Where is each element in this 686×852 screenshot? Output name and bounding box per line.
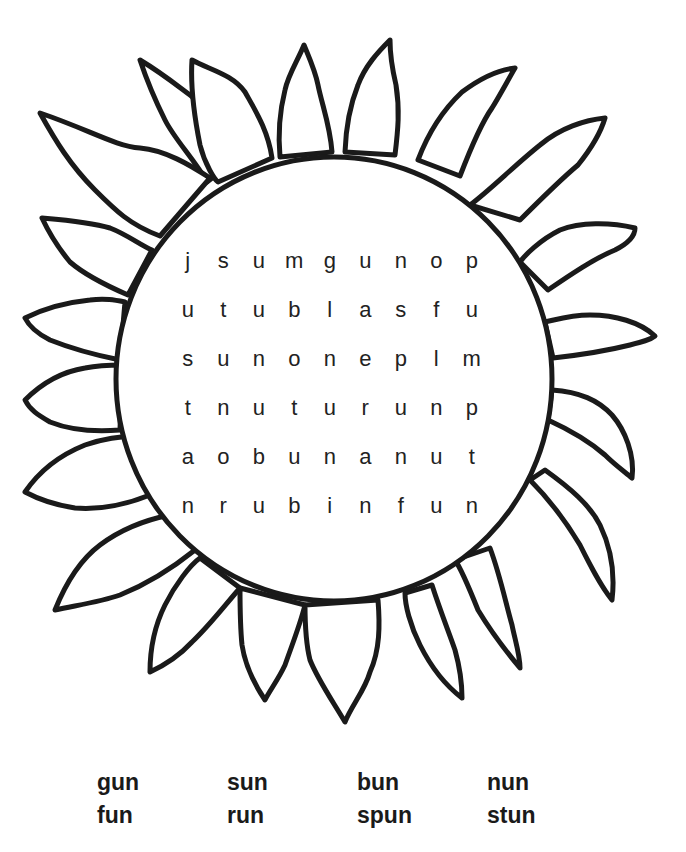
grid-letter[interactable]: b (277, 297, 313, 323)
grid-letter[interactable]: g (312, 248, 348, 274)
grid-row: a o b u n a n u t (170, 432, 490, 481)
grid-letter[interactable]: a (348, 444, 384, 470)
grid-letter[interactable]: t (206, 297, 242, 323)
grid-letter[interactable]: u (241, 493, 277, 519)
word-bank-item: sun (227, 769, 357, 796)
grid-letter[interactable]: o (419, 248, 455, 274)
grid-letter[interactable]: u (383, 395, 419, 421)
grid-letter[interactable]: u (206, 346, 242, 372)
grid-letter[interactable]: t (277, 395, 313, 421)
grid-letter[interactable]: u (241, 395, 277, 421)
grid-letter[interactable]: u (419, 444, 455, 470)
grid-letter[interactable]: m (454, 346, 490, 372)
grid-letter[interactable]: u (312, 395, 348, 421)
grid-letter[interactable]: l (312, 297, 348, 323)
grid-letter[interactable]: o (206, 444, 242, 470)
word-bank: gun sun bun nun fun run spun stun (97, 766, 617, 832)
grid-letter[interactable]: a (170, 444, 206, 470)
grid-letter[interactable]: u (454, 297, 490, 323)
grid-letter[interactable]: u (241, 248, 277, 274)
grid-letter[interactable]: r (206, 493, 242, 519)
grid-row: j s u m g u n o p (170, 236, 490, 285)
grid-row: t n u t u r u n p (170, 383, 490, 432)
grid-letter[interactable]: b (277, 493, 313, 519)
grid-letter[interactable]: n (312, 444, 348, 470)
grid-letter[interactable]: n (383, 444, 419, 470)
grid-letter[interactable]: p (454, 248, 490, 274)
word-bank-item: nun (487, 769, 617, 796)
grid-letter[interactable]: n (241, 346, 277, 372)
grid-letter[interactable]: u (170, 297, 206, 323)
word-bank-item: fun (97, 802, 227, 829)
grid-letter[interactable]: i (312, 493, 348, 519)
grid-letter[interactable]: n (312, 346, 348, 372)
grid-letter[interactable]: l (419, 346, 455, 372)
word-bank-row: gun sun bun nun (97, 766, 617, 799)
word-bank-item: bun (357, 769, 487, 796)
grid-letter[interactable]: u (419, 493, 455, 519)
grid-letter[interactable]: p (383, 346, 419, 372)
grid-letter[interactable]: n (454, 493, 490, 519)
grid-row: u t u b l a s f u (170, 285, 490, 334)
grid-letter[interactable]: t (170, 395, 206, 421)
grid-letter[interactable]: m (277, 248, 313, 274)
grid-letter[interactable]: f (383, 493, 419, 519)
grid-letter[interactable]: n (419, 395, 455, 421)
grid-row: s u n o n e p l m (170, 334, 490, 383)
grid-letter[interactable]: o (277, 346, 313, 372)
grid-letter[interactable]: t (454, 444, 490, 470)
grid-letter[interactable]: r (348, 395, 384, 421)
word-bank-item: gun (97, 769, 227, 796)
grid-letter[interactable]: p (454, 395, 490, 421)
grid-letter[interactable]: u (241, 297, 277, 323)
grid-letter[interactable]: n (348, 493, 384, 519)
grid-letter[interactable]: n (206, 395, 242, 421)
grid-letter[interactable]: s (170, 346, 206, 372)
grid-letter[interactable]: u (348, 248, 384, 274)
grid-letter[interactable]: s (383, 297, 419, 323)
grid-row: n r u b i n f u n (170, 481, 490, 530)
word-bank-item: run (227, 802, 357, 829)
grid-letter[interactable]: f (419, 297, 455, 323)
grid-letter[interactable]: e (348, 346, 384, 372)
grid-letter[interactable]: u (277, 444, 313, 470)
grid-letter[interactable]: b (241, 444, 277, 470)
grid-letter[interactable]: a (348, 297, 384, 323)
word-bank-row: fun run spun stun (97, 799, 617, 832)
word-bank-item: spun (357, 802, 487, 829)
word-bank-item: stun (487, 802, 617, 829)
grid-letter[interactable]: j (170, 248, 206, 274)
grid-letter[interactable]: n (383, 248, 419, 274)
grid-letter[interactable]: n (170, 493, 206, 519)
grid-letter[interactable]: s (206, 248, 242, 274)
word-search-grid: j s u m g u n o p u t u b l a s f u s u … (170, 236, 490, 530)
